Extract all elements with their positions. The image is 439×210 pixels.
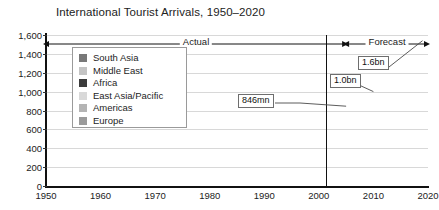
y-tick-mark xyxy=(43,129,47,130)
x-tick-label: 2000 xyxy=(308,190,329,201)
gridline xyxy=(46,167,428,168)
x-tick-label: 2020 xyxy=(417,190,438,201)
legend-swatch-icon xyxy=(79,54,87,62)
legend-label: Europe xyxy=(93,115,124,128)
y-tick-label: 600 xyxy=(2,124,42,135)
legend-label: Africa xyxy=(93,77,117,90)
legend-item[interactable]: Middle East xyxy=(79,65,186,78)
legend-label: Americas xyxy=(93,102,133,115)
y-tick-mark xyxy=(43,167,47,168)
legend-swatch-icon xyxy=(79,79,87,87)
x-tick-label: 1950 xyxy=(35,190,56,201)
legend-swatch-icon xyxy=(79,104,87,112)
gridline xyxy=(46,129,428,130)
chart-title: International Tourist Arrivals, 1950–202… xyxy=(56,6,265,18)
annotation-1-6bn: 1.6bn xyxy=(358,56,389,70)
legend-item[interactable]: Africa xyxy=(79,77,186,90)
y-tick-mark xyxy=(43,111,47,112)
chart-legend: South AsiaMiddle EastAfricaEast Asia/Pac… xyxy=(72,47,187,128)
legend-label: South Asia xyxy=(93,52,138,65)
x-tick-label: 1970 xyxy=(145,190,166,201)
x-axis-line xyxy=(45,186,429,188)
phase-label-actual: Actual xyxy=(180,36,212,47)
gridline xyxy=(46,148,428,149)
y-tick-mark xyxy=(43,73,47,74)
x-tick-label: 2010 xyxy=(363,190,384,201)
legend-item[interactable]: South Asia xyxy=(79,52,186,65)
legend-swatch-icon xyxy=(79,67,87,75)
x-tick-label: 1960 xyxy=(90,190,111,201)
forecast-divider-line xyxy=(326,35,327,187)
y-axis-tick-labels: 02004006008001,0001,2001,4001,600 xyxy=(0,35,42,186)
y-tick-label: 1,400 xyxy=(2,48,42,59)
y-tick-mark xyxy=(43,186,47,187)
y-tick-label: 800 xyxy=(2,105,42,116)
y-tick-label: 400 xyxy=(2,143,42,154)
y-tick-mark xyxy=(43,148,47,149)
y-tick-mark xyxy=(43,35,47,36)
y-tick-label: 1,600 xyxy=(2,30,42,41)
annotation-846mn: 846mn xyxy=(238,94,274,108)
x-tick-label: 1990 xyxy=(254,190,275,201)
legend-label: Middle East xyxy=(93,65,143,78)
legend-item[interactable]: East Asia/Pacific xyxy=(79,90,186,103)
legend-swatch-icon xyxy=(79,117,87,125)
y-tick-label: 200 xyxy=(2,162,42,173)
x-tick-label: 1980 xyxy=(199,190,220,201)
y-tick-label: 1,200 xyxy=(2,67,42,78)
legend-label: East Asia/Pacific xyxy=(93,90,163,103)
y-tick-mark xyxy=(43,54,47,55)
legend-item[interactable]: Europe xyxy=(79,115,186,128)
annotation-1-0bn: 1.0bn xyxy=(330,74,361,88)
legend-swatch-icon xyxy=(79,92,87,100)
y-tick-label: 1,000 xyxy=(2,86,42,97)
y-tick-mark xyxy=(43,92,47,93)
legend-item[interactable]: Americas xyxy=(79,102,186,115)
phase-label-forecast: Forecast xyxy=(366,36,409,47)
